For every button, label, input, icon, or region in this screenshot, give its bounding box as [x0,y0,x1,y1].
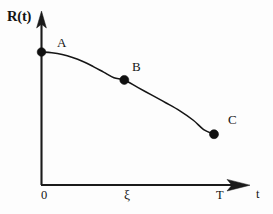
point-label-a: A [57,36,66,49]
data-point-a [37,48,46,57]
y-axis-title: R(t) [7,9,31,24]
point-label-c: C [228,113,237,126]
figure-container: R(t) t 0 ξ T A B C [0,0,273,214]
x-axis-title: t [256,188,259,201]
decay-curve [42,52,215,134]
point-label-b: B [132,60,141,73]
x-tick-label-xi: ξ [124,188,130,202]
plot-canvas [0,0,273,214]
data-point-b [120,75,129,84]
x-tick-label-t-max: T [216,189,224,202]
x-tick-label-origin: 0 [41,189,47,202]
data-point-c [210,130,219,139]
